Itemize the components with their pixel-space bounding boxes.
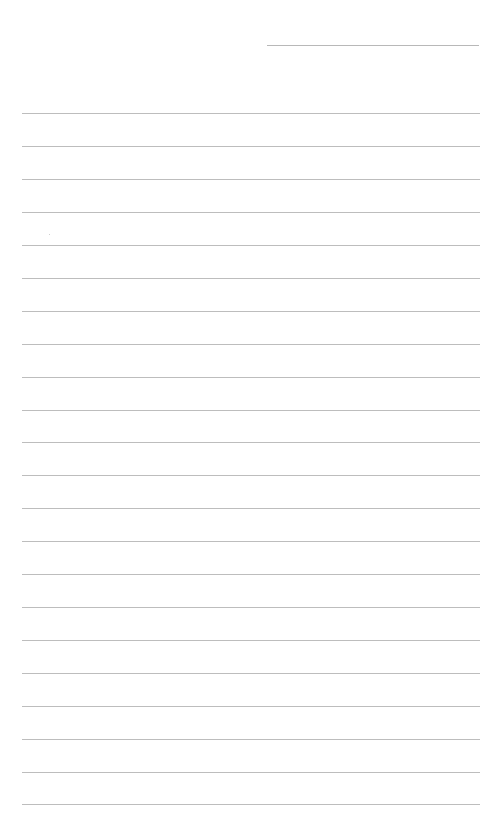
ruled-line [22, 113, 480, 114]
ruled-line [22, 607, 480, 608]
ruled-line [22, 146, 480, 147]
ruled-line [22, 344, 480, 345]
ruled-line [22, 212, 480, 213]
ruled-line [22, 574, 480, 575]
ruled-line [22, 311, 480, 312]
ruled-line [22, 410, 480, 411]
ruled-line [22, 475, 480, 476]
ruled-line [22, 377, 480, 378]
ruled-line [22, 673, 480, 674]
lined-paper-page [0, 0, 497, 829]
ruled-line [22, 772, 480, 773]
ruled-line [22, 640, 480, 641]
ruled-line [22, 541, 480, 542]
ruled-line [22, 278, 480, 279]
ruled-line [22, 508, 480, 509]
header-name-line [267, 45, 479, 46]
ruled-line [22, 804, 480, 805]
ruled-line [22, 706, 480, 707]
ruled-line [22, 179, 480, 180]
ruled-line [22, 739, 480, 740]
ruled-line [22, 245, 480, 246]
paper-speck [49, 234, 50, 235]
ruled-line [22, 442, 480, 443]
